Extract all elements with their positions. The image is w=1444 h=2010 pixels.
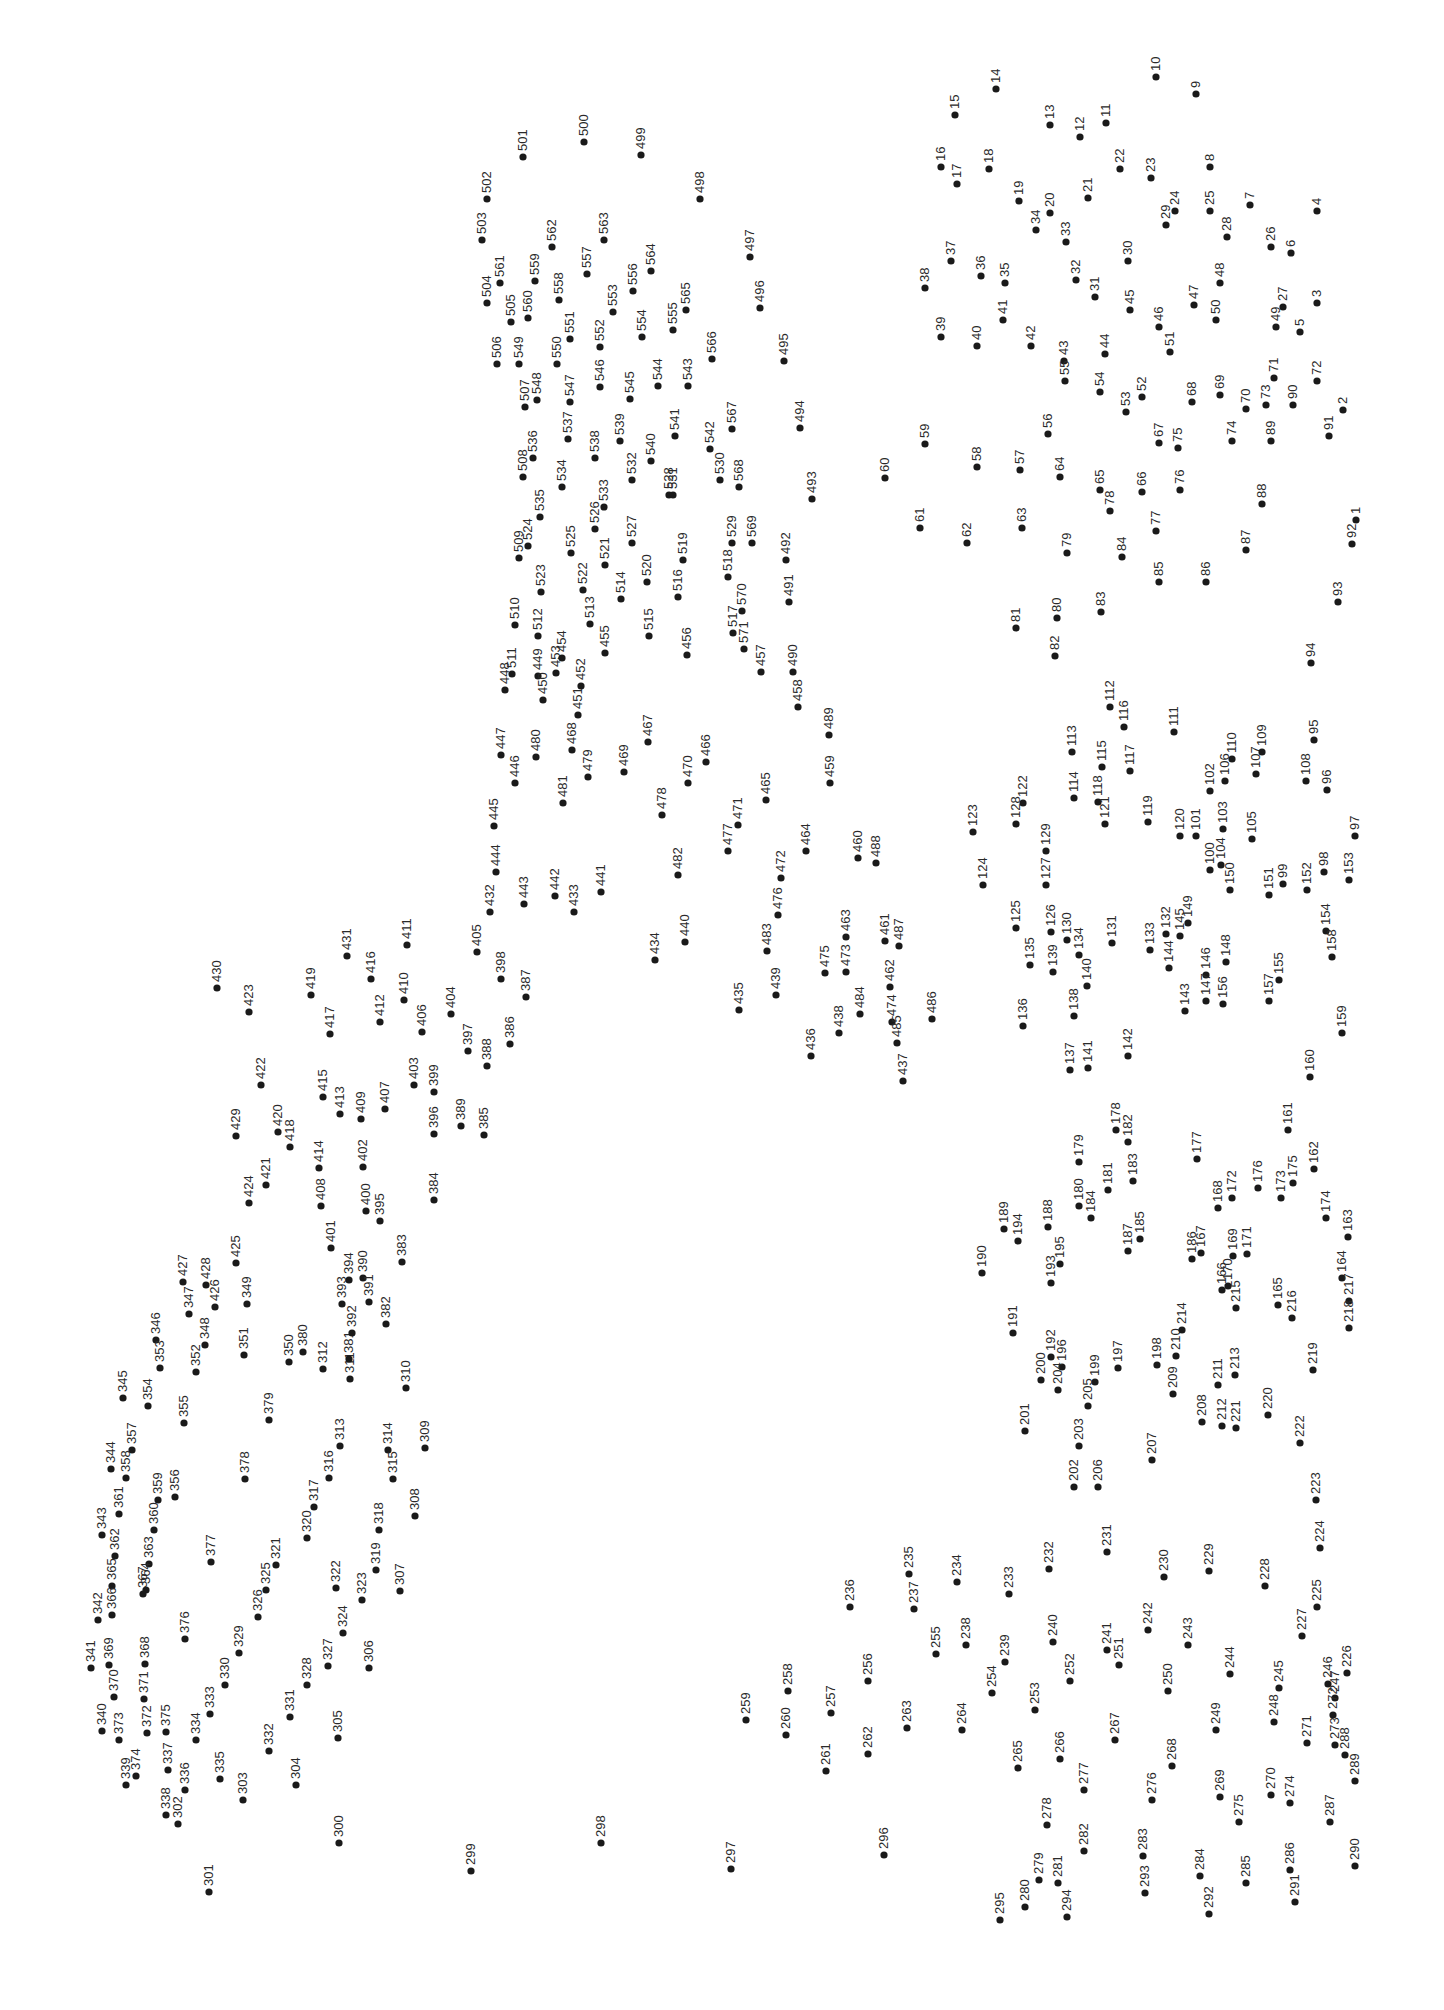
dot-marker [307, 991, 314, 998]
dot-number-label: 561 [492, 255, 507, 277]
dot-number-label: 497 [742, 229, 757, 251]
dot-number-label: 119 [1140, 795, 1155, 816]
dot-number-label: 208 [1194, 1394, 1209, 1416]
dot-number-label: 457 [753, 644, 768, 666]
dot-marker [1152, 527, 1159, 534]
dot-marker [365, 1664, 372, 1671]
dot-number-label: 449 [530, 648, 545, 670]
dot-marker [1261, 1582, 1268, 1589]
dot-number-label: 412 [372, 994, 387, 1016]
dot-marker [782, 556, 789, 563]
dot-number-label: 205 [1080, 1378, 1095, 1400]
dot-marker [1035, 1876, 1042, 1883]
dot-number-label: 284 [1192, 1848, 1207, 1870]
dot-number-label: 336 [177, 1762, 192, 1784]
dot-number-label: 77 [1148, 511, 1163, 525]
dot-marker [1076, 133, 1083, 140]
dot-marker [1184, 919, 1191, 926]
dot-marker [735, 483, 742, 490]
dot-marker [286, 1713, 293, 1720]
dot-marker [162, 1811, 169, 1818]
dot-number-label: 18 [981, 149, 996, 163]
dot-marker [506, 1040, 513, 1047]
dot-marker [1291, 1898, 1298, 1905]
dot-number-label: 305 [330, 1710, 345, 1732]
dot-marker [486, 908, 493, 915]
dot-number-label: 466 [698, 734, 713, 756]
dot-number-label: 3 [1309, 290, 1324, 297]
dot-marker [654, 382, 661, 389]
dot-number-label: 153 [1341, 852, 1356, 874]
dot-number-label: 483 [759, 923, 774, 945]
dot-number-label: 292 [1201, 1886, 1216, 1908]
dot-number-label: 272 [1325, 1687, 1340, 1709]
dot-marker [1031, 1706, 1038, 1713]
dot-number-label: 557 [579, 246, 594, 268]
dot-number-label: 308 [407, 1488, 422, 1510]
dot-marker [235, 1649, 242, 1656]
dot-marker [171, 1493, 178, 1500]
dot-number-label: 204 [1050, 1362, 1065, 1384]
dot-marker [1066, 1677, 1073, 1684]
dot-marker [1206, 207, 1213, 214]
dot-number-label: 222 [1292, 1415, 1307, 1437]
dot-number-label: 325 [258, 1562, 273, 1584]
dot-marker [1206, 866, 1213, 873]
dot-marker [1126, 306, 1133, 313]
dot-number-label: 404 [443, 986, 458, 1008]
dot-marker [724, 847, 731, 854]
dot-marker [647, 267, 654, 274]
dot-marker [1000, 1225, 1007, 1232]
dot-number-label: 329 [231, 1625, 246, 1647]
dot-number-label: 8 [1202, 154, 1217, 161]
dot-number-label: 260 [778, 1707, 793, 1729]
dot-number-label: 43 [1056, 341, 1071, 355]
dot-number-label: 102 [1202, 763, 1217, 785]
dot-number-label: 541 [667, 408, 682, 430]
dot-number-label: 345 [115, 1370, 130, 1392]
dot-marker [1012, 624, 1019, 631]
dot-number-label: 49 [1268, 307, 1283, 321]
dot-marker [336, 1442, 343, 1449]
dot-marker [1188, 1255, 1195, 1262]
dot-number-label: 112 [1102, 680, 1117, 701]
dot-marker [1334, 598, 1341, 605]
dot-marker [985, 165, 992, 172]
dot-marker [1147, 174, 1154, 181]
dot-marker [716, 476, 723, 483]
dot-number-label: 78 [1102, 491, 1117, 505]
dot-number-label: 427 [175, 1254, 190, 1276]
dot-marker [772, 991, 779, 998]
dot-marker [524, 314, 531, 321]
dot-marker [1075, 951, 1082, 958]
dot-marker [963, 539, 970, 546]
dot-marker [1218, 1286, 1225, 1293]
dot-marker [1124, 257, 1131, 264]
dot-marker [365, 1298, 372, 1305]
dot-number-label: 445 [486, 798, 501, 820]
dot-marker [932, 1650, 939, 1657]
dot-marker [1098, 763, 1105, 770]
dot-marker [1343, 1669, 1350, 1676]
dot-number-label: 343 [94, 1507, 109, 1529]
dot-number-label: 338 [158, 1787, 173, 1809]
dot-marker [808, 495, 815, 502]
dot-number-label: 518 [720, 549, 735, 571]
dot-marker [1252, 770, 1259, 777]
dot-number-label: 46 [1151, 307, 1166, 321]
dot-number-label: 276 [1144, 1772, 1159, 1794]
dot-number-label: 76 [1172, 470, 1187, 484]
dot-marker [1153, 1361, 1160, 1368]
dot-number-label: 421 [258, 1157, 273, 1179]
dot-marker [958, 1726, 965, 1733]
dot-number-label: 386 [502, 1016, 517, 1038]
dot-number-label: 289 [1347, 1753, 1362, 1775]
dot-number-label: 15 [947, 95, 962, 109]
dot-marker [1032, 226, 1039, 233]
dot-marker [682, 306, 689, 313]
dot-marker [1155, 323, 1162, 330]
dot-marker [645, 632, 652, 639]
dot-number-label: 344 [103, 1441, 118, 1463]
dot-number-label: 481 [555, 775, 570, 797]
dot-number-label: 568 [731, 459, 746, 481]
